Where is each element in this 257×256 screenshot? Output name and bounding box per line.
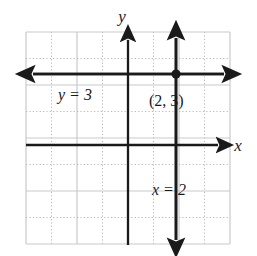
y-axis-label: y xyxy=(116,7,126,26)
x-axis-label: x xyxy=(233,136,242,155)
label-x-equals-2: x = 2 xyxy=(151,181,186,198)
coordinate-plane-svg: y x y = 3 x = 2 (2, 3) xyxy=(0,0,257,256)
graph-figure: y x y = 3 x = 2 (2, 3) xyxy=(0,0,257,256)
label-intersection-point: (2, 3) xyxy=(149,92,184,110)
label-y-equals-3: y = 3 xyxy=(56,86,92,104)
intersection-point-marker xyxy=(171,69,180,78)
